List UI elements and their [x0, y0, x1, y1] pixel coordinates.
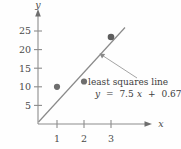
x-tick-label-3: 3: [108, 133, 114, 144]
annotation-label: least squares line: [88, 77, 168, 87]
leader-arrowhead: [100, 54, 106, 59]
y-tick-label-5: 5: [25, 100, 31, 111]
x-tick-label-1: 1: [54, 133, 60, 144]
y-axis-arrowhead: [35, 9, 41, 17]
equation-variable: x: [137, 89, 142, 99]
data-point: [108, 34, 115, 41]
y-tick-label-25: 25: [19, 25, 31, 36]
y-tick-label-15: 15: [19, 63, 31, 74]
least-squares-scatter-figure: 5 10 15 20 25 1 2 3 y x least squares li…: [0, 0, 181, 149]
chart-canvas: 5 10 15 20 25 1 2 3 y x least squares li…: [0, 0, 181, 149]
equation-lhs: y: [94, 89, 101, 99]
y-axis-label: y: [34, 0, 41, 10]
x-axis-arrowhead: [145, 121, 153, 126]
data-point: [54, 84, 60, 90]
equation-slope: 7.5: [119, 89, 134, 99]
equation-plus: +: [148, 89, 156, 99]
x-tick-label-2: 2: [81, 133, 87, 144]
annotation-equation: y = 7.5 x + 0.67: [94, 89, 181, 99]
equation-equals: =: [106, 89, 114, 99]
x-axis-label: x: [158, 118, 164, 129]
leader-line: [103, 56, 138, 79]
y-tick-label-10: 10: [19, 81, 31, 92]
annotation-leader: [100, 54, 138, 79]
y-tick-labels: 5 10 15 20 25: [19, 25, 31, 110]
axis-group: [35, 9, 152, 127]
equation-intercept: 0.67: [161, 89, 181, 99]
y-tick-label-20: 20: [19, 44, 31, 55]
x-tick-labels: 1 2 3: [54, 133, 114, 144]
data-point: [81, 78, 87, 84]
regression-line: [39, 28, 126, 123]
